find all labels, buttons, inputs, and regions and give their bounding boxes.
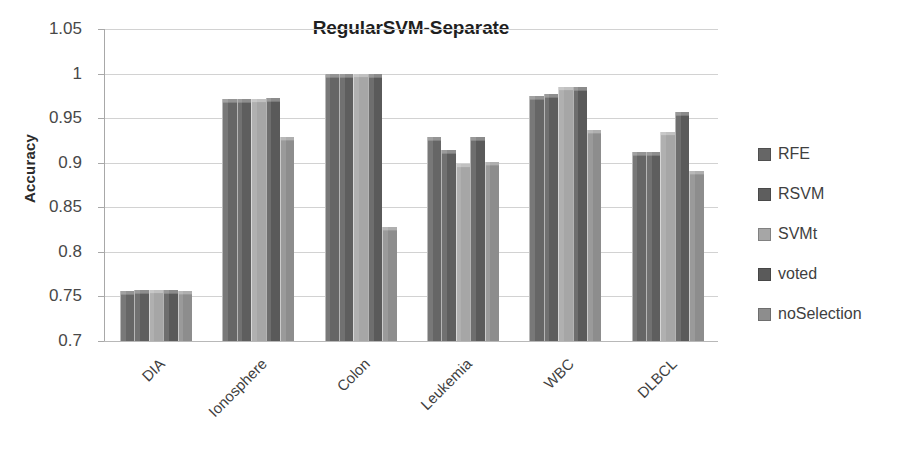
bar — [368, 74, 382, 341]
y-tick-label: 0.95 — [30, 108, 82, 128]
x-tick-label: Colon — [205, 355, 373, 463]
legend-swatch-icon — [758, 148, 771, 161]
bar-highlight — [486, 162, 491, 341]
bar — [529, 96, 543, 341]
bar — [339, 74, 353, 341]
bar-highlight — [545, 94, 550, 341]
bar-highlight — [252, 99, 257, 341]
legend-item-label: RFE — [778, 145, 810, 163]
bar-group — [120, 29, 192, 341]
legend-item-rfe[interactable]: RFE — [758, 134, 908, 174]
bar — [632, 152, 646, 341]
legend-item-svmt[interactable]: SVMt — [758, 214, 908, 254]
bar-highlight — [340, 74, 345, 341]
legend-swatch-icon — [758, 268, 771, 281]
bar-group — [632, 29, 704, 341]
x-axis-tick-labels: DIAIonosphereColonLeukemiaWBCDLBCL — [104, 341, 718, 463]
bar-highlight — [530, 96, 535, 341]
bar-highlight — [647, 152, 652, 341]
bar-highlight — [442, 150, 447, 341]
bar — [587, 130, 601, 341]
bar-chart: RegularSVM-Separate Accuracy 0.70.750.80… — [0, 0, 913, 463]
y-tick-label: 1 — [30, 64, 82, 84]
bar-highlight — [281, 137, 286, 341]
bar-highlight — [354, 74, 359, 341]
bar-highlight — [574, 87, 579, 341]
legend-item-label: noSelection — [778, 305, 862, 323]
y-tick-label: 0.85 — [30, 197, 82, 217]
bar-highlight — [428, 137, 433, 341]
bar — [178, 291, 192, 341]
legend-swatch-icon — [758, 188, 771, 201]
bar-highlight — [690, 171, 695, 341]
bar-highlight — [267, 98, 272, 341]
bar-highlight — [676, 112, 681, 341]
bar-highlight — [588, 130, 593, 341]
bar-highlight — [471, 137, 476, 341]
bar — [134, 290, 148, 341]
legend-item-voted[interactable]: voted — [758, 254, 908, 294]
bar-highlight — [164, 290, 169, 341]
x-tick-label: DLBCL — [512, 355, 680, 463]
bar — [353, 74, 367, 341]
bar-highlight — [135, 290, 140, 341]
bar — [558, 87, 572, 341]
legend-item-label: RSVM — [778, 185, 824, 203]
bar — [266, 98, 280, 341]
bar — [222, 99, 236, 341]
legend-swatch-icon — [758, 228, 771, 241]
legend-item-rsvm[interactable]: RSVM — [758, 174, 908, 214]
legend-item-label: voted — [778, 265, 817, 283]
bar-highlight — [326, 74, 331, 341]
bar-highlight — [150, 290, 155, 341]
bar-highlight — [369, 74, 374, 341]
bar — [441, 150, 455, 341]
bar-group — [529, 29, 601, 341]
chart-legend: RFERSVMSVMtvotednoSelection — [758, 134, 908, 334]
legend-swatch-icon — [758, 308, 771, 321]
legend-item-noselection[interactable]: noSelection — [758, 294, 908, 334]
bar — [689, 171, 703, 341]
bar-group — [427, 29, 499, 341]
y-tick-label: 0.8 — [30, 242, 82, 262]
bar — [646, 152, 660, 341]
y-tick-label: 0.9 — [30, 153, 82, 173]
bar-series-container — [104, 29, 718, 341]
bar — [456, 164, 470, 341]
bar-highlight — [383, 227, 388, 341]
legend-item-label: SVMt — [778, 225, 817, 243]
bar — [573, 87, 587, 341]
y-tick-label: 0.7 — [30, 331, 82, 351]
bar-highlight — [238, 99, 243, 341]
bar — [149, 290, 163, 341]
plot-area — [104, 29, 718, 341]
bar — [280, 137, 294, 341]
bar-highlight — [121, 291, 126, 341]
bar-highlight — [559, 87, 564, 341]
y-axis-tick-labels: 0.70.750.80.850.90.9511.05 — [26, 0, 82, 463]
x-tick-label: Ionosphere — [103, 355, 271, 463]
bar — [251, 99, 265, 341]
bar-highlight — [179, 291, 184, 341]
bar — [470, 137, 484, 341]
bar — [427, 137, 441, 341]
bar-highlight — [457, 164, 462, 341]
bar-highlight — [223, 99, 228, 341]
bar — [163, 290, 177, 341]
bar — [120, 291, 134, 341]
bar — [660, 132, 674, 341]
bar-group — [222, 29, 294, 341]
x-tick-label: WBC — [410, 355, 578, 463]
bar — [544, 94, 558, 341]
x-tick-label: Leukemia — [307, 355, 475, 463]
bar — [237, 99, 251, 341]
bar — [325, 74, 339, 341]
bar-highlight — [633, 152, 638, 341]
y-tick-label: 1.05 — [30, 19, 82, 39]
bar — [382, 227, 396, 341]
bar-highlight — [661, 132, 666, 341]
bar — [485, 162, 499, 341]
y-tick-label: 0.75 — [30, 286, 82, 306]
bar-group — [325, 29, 397, 341]
bar — [675, 112, 689, 341]
